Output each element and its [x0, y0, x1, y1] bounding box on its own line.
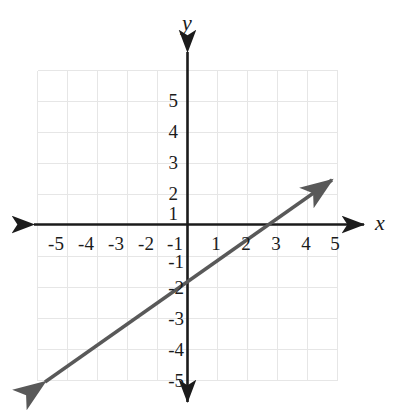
x-tick-label: 3	[271, 233, 281, 254]
x-tick-label: 1	[211, 233, 221, 254]
x-tick-label: -5	[48, 233, 64, 254]
y-tick-label: -1	[168, 251, 184, 272]
y-tick-label: 4	[169, 121, 179, 142]
y-tick-label: -5	[168, 370, 184, 391]
x-tick-labels: -5 -4 -3 -2 -1 1 2 3 4 5	[48, 233, 340, 254]
x-tick-label: -2	[138, 233, 154, 254]
y-tick-label: -3	[168, 308, 184, 329]
y-tick-label: -2	[168, 277, 184, 298]
y-axis-label: y	[180, 10, 192, 35]
y-tick-label: 1	[169, 203, 179, 224]
x-axis-label: x	[374, 210, 385, 235]
x-tick-label: -4	[78, 233, 94, 254]
x-tick-label: 5	[330, 233, 340, 254]
y-tick-label: 2	[169, 183, 179, 204]
y-tick-label: 5	[169, 90, 179, 111]
x-tick-label: -3	[108, 233, 124, 254]
x-tick-label: 4	[301, 233, 311, 254]
x-tick-label: 2	[241, 233, 251, 254]
y-tick-label: 3	[169, 152, 179, 173]
graph-canvas: -5 -4 -3 -2 -1 1 2 3 4 5 5 4 3 2 1 -1 -2…	[0, 0, 398, 414]
coordinate-graph-figure: -5 -4 -3 -2 -1 1 2 3 4 5 5 4 3 2 1 -1 -2…	[0, 0, 398, 414]
y-tick-label: -4	[168, 339, 184, 360]
